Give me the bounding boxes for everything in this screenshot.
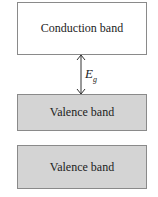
valence-band-lower-label: Valence band	[50, 160, 114, 175]
band-gap-label: Eg	[85, 66, 97, 84]
band-gap-subscript: g	[93, 75, 97, 84]
valence-band-lower-box: Valence band	[17, 145, 147, 189]
conduction-band-box: Conduction band	[17, 2, 147, 55]
valence-band-upper-box: Valence band	[17, 94, 147, 131]
band-gap-symbol: E	[85, 66, 93, 81]
valence-band-upper-label: Valence band	[50, 105, 114, 120]
conduction-band-label: Conduction band	[41, 21, 123, 36]
